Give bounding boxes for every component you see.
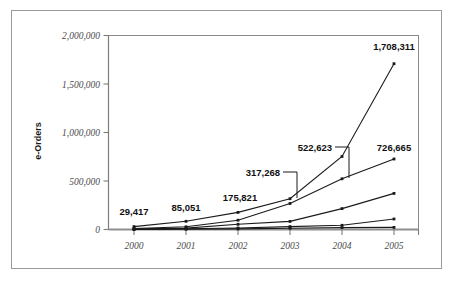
x-tick-label-2003: 2003 — [281, 241, 300, 251]
point-label-1708311: 1,708,311 — [373, 41, 415, 52]
line-chart: 0 500,000 1,000,000 1,500,000 2,000,000 … — [0, 0, 455, 281]
y-tick-label-0: 0 — [95, 225, 100, 235]
point-label-726665: 726,665 — [377, 142, 412, 153]
x-tick-label-2004: 2004 — [333, 241, 352, 251]
point-label-175821: 175,821 — [223, 192, 258, 203]
y-tick-label-1000000: 1,000,000 — [62, 128, 100, 138]
y-axis-ticks — [104, 36, 109, 230]
point-label-522623: 522,623 — [298, 142, 332, 153]
x-tick-label-2005: 2005 — [385, 241, 404, 251]
y-tick-label-500000: 500,000 — [69, 177, 100, 187]
chart-figure: 0 500,000 1,000,000 1,500,000 2,000,000 … — [0, 0, 455, 281]
x-tick-label-2002: 2002 — [229, 241, 248, 251]
y-axis-title: e-Orders — [33, 122, 43, 160]
point-label-317268: 317,268 — [246, 167, 280, 178]
y-tick-label-1500000: 1,500,000 — [62, 80, 100, 90]
y-tick-label-2000000: 2,000,000 — [62, 31, 100, 41]
point-label-29417: 29,417 — [119, 206, 148, 217]
x-tick-label-2001: 2001 — [177, 241, 196, 251]
point-label-85051: 85,051 — [171, 202, 201, 213]
x-tick-label-2000: 2000 — [125, 241, 144, 251]
